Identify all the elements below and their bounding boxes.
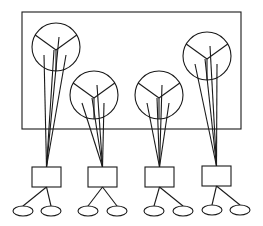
branch-line bbox=[88, 187, 103, 206]
branch-line bbox=[23, 187, 47, 206]
branch-line bbox=[103, 187, 118, 206]
leaf-oval bbox=[41, 206, 61, 216]
connector-line bbox=[103, 103, 105, 167]
leaf-oval bbox=[202, 205, 222, 215]
leaf-oval bbox=[78, 206, 98, 216]
unit-box bbox=[145, 167, 174, 187]
connector-line bbox=[47, 55, 67, 167]
branch-line bbox=[47, 187, 52, 206]
unit-2 bbox=[70, 71, 127, 216]
branch-line bbox=[217, 186, 241, 205]
connector-line bbox=[82, 103, 103, 167]
connector-line bbox=[44, 55, 47, 167]
leaf-oval bbox=[144, 206, 164, 216]
hierarchy-diagram bbox=[0, 0, 263, 226]
unit-box bbox=[32, 167, 61, 187]
circle-spoke bbox=[35, 35, 56, 50]
branch-line bbox=[160, 187, 184, 206]
circle-spoke bbox=[138, 83, 159, 98]
connector-line bbox=[47, 50, 55, 167]
circle-spoke bbox=[73, 83, 94, 98]
leaf-oval bbox=[107, 206, 127, 216]
leaf-oval bbox=[230, 205, 250, 215]
connector-line bbox=[97, 85, 103, 167]
leaf-oval bbox=[13, 206, 33, 216]
units-group bbox=[13, 23, 250, 216]
branch-line bbox=[212, 186, 217, 205]
unit-box bbox=[202, 166, 231, 186]
unit-3 bbox=[135, 71, 193, 216]
leaf-oval bbox=[173, 206, 193, 216]
unit-4 bbox=[183, 32, 250, 215]
branch-line bbox=[154, 187, 160, 206]
unit-box bbox=[88, 167, 117, 187]
unit-1 bbox=[13, 23, 80, 216]
circle-spoke bbox=[186, 44, 207, 59]
connector-line bbox=[47, 37, 60, 167]
connector-line bbox=[217, 64, 218, 166]
